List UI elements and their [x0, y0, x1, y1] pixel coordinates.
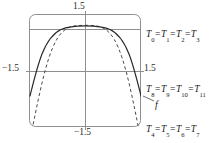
node-label-middle-s1: 9 — [166, 91, 169, 98]
axis-tick-label-bottom: −1.5 — [74, 127, 91, 137]
node-label-middle-group: T8=T9=T10=T11 — [146, 84, 206, 94]
axis-tick-label-left: −1.5 — [2, 63, 19, 73]
node-label-bottom-group: T4=T5=T6=T7 — [146, 124, 199, 134]
plot-canvas — [0, 0, 221, 143]
node-label-top-s3: 3 — [196, 36, 199, 43]
node-label-top-s1: 1 — [166, 36, 169, 43]
axis-tick-label-top: 1.5 — [73, 1, 85, 11]
node-label-middle-s3: 11 — [199, 91, 205, 98]
node-label-bottom-s0: 4 — [151, 131, 154, 138]
node-label-bottom-s1: 5 — [166, 131, 169, 138]
node-label-bottom-s3: 7 — [196, 131, 199, 138]
node-label-middle-s2: 10 — [181, 91, 188, 98]
node-label-top-s0: 0 — [151, 36, 154, 43]
node-label-bottom-s2: 6 — [181, 131, 184, 138]
node-label-top-s2: 2 — [181, 36, 184, 43]
node-label-top-group: T0=T1=T2=T3 — [146, 29, 199, 39]
figure-container: 1.5 −1.5 1.5 −1.5 T0=T1=T2=T3 T8=T9=T10=… — [0, 0, 221, 143]
node-label-middle-s0: 8 — [151, 91, 154, 98]
axis-tick-label-right: 1.5 — [144, 63, 156, 73]
curve-label-f: f — [155, 99, 158, 110]
